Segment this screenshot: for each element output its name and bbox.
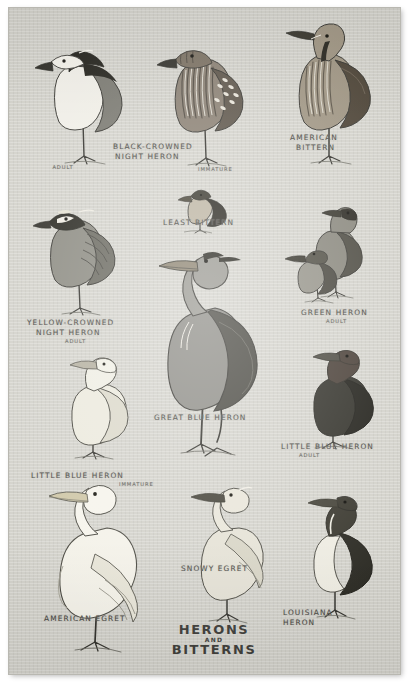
caption-american-egret: AMERICAN EGRET: [44, 614, 126, 623]
caption-little-blue-heron-immature: LITTLE BLUE HERON: [31, 471, 124, 480]
caption-green-heron-stage: ADULT: [326, 318, 347, 325]
bird-illustration-yellow-crowned-night-heron: [29, 200, 139, 320]
bird-illustration-least-bittern: [174, 184, 244, 236]
caption-black-crowned-night-heron-adult-stage: ADULT: [31, 164, 95, 171]
plate-title-line1: HERONS: [149, 622, 279, 637]
bird-illustration-great-blue-heron: [145, 248, 285, 468]
bird-illustration-snowy-egret: [177, 486, 293, 632]
caption-american-bittern-line2: BITTERN: [296, 143, 335, 152]
caption-little-blue-heron-adult-stage: ADULT: [299, 452, 320, 459]
plate-title: HERONS AND BITTERNS: [149, 622, 279, 657]
caption-great-blue-heron: GREAT BLUE HERON: [154, 413, 246, 422]
caption-american-bittern-line1: AMERICAN: [290, 133, 338, 142]
bird-illustration-black-crowned-night-heron-immature: [153, 34, 263, 170]
caption-louisiana-heron-line1: LOUISIANA: [283, 608, 333, 617]
caption-yellow-crowned-night-heron-line1: YELLOW-CROWNED: [27, 318, 114, 327]
caption-snowy-egret: SNOWY EGRET: [181, 564, 248, 573]
caption-little-blue-heron-adult: LITTLE BLUE HERON: [281, 442, 374, 451]
caption-yellow-crowned-night-heron-line2: NIGHT HERON: [36, 328, 101, 337]
caption-least-bittern: LEAST BITTERN: [163, 218, 234, 227]
plate-title-line3: BITTERNS: [149, 642, 279, 657]
paper-sheet: ADULT BLACK-CROWNED NIGHT HERON: [9, 8, 400, 674]
illustration-plate: ADULT BLACK-CROWNED NIGHT HERON: [0, 0, 409, 682]
caption-yellow-crowned-night-heron-stage: ADULT: [65, 338, 86, 345]
caption-green-heron: GREEN HERON: [301, 308, 368, 317]
caption-louisiana-heron-line2: HERON: [283, 618, 315, 627]
caption-black-crowned-night-heron-immature-stage: IMMATURE: [198, 166, 233, 173]
bird-illustration-little-blue-heron-immature: [47, 356, 155, 468]
bird-illustration-green-heron-lower: [281, 244, 357, 306]
